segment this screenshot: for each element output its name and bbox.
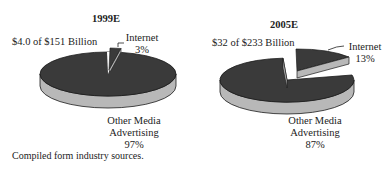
other-label-2005e: Other Media Advertising 87% — [281, 115, 349, 151]
title-1999e: 1999E — [92, 13, 120, 25]
other-label-line1: Other Media — [100, 115, 168, 127]
other-label-1999e: Other Media Advertising 97% — [100, 115, 168, 151]
internet-label: Internet — [124, 32, 160, 44]
other-label-line1: Other Media — [281, 115, 349, 127]
subtitle-1999e: $4.0 of $151 Billion — [12, 36, 97, 48]
internet-label-2005e: Internet 13% — [345, 41, 385, 65]
subtitle-2005e: $32 of $233 Billion — [212, 37, 295, 49]
pie-2005e — [220, 46, 354, 114]
internet-pct: 3% — [124, 44, 160, 56]
internet-label-1999e: Internet 3% — [124, 32, 160, 56]
title-2005e: 2005E — [270, 19, 298, 31]
internet-pct: 13% — [345, 53, 385, 65]
other-label-line2: Advertising — [100, 127, 168, 139]
source-footnote: Compiled form industry sources. — [12, 150, 144, 162]
other-pct: 87% — [281, 139, 349, 151]
internet-label: Internet — [345, 41, 385, 53]
other-label-line2: Advertising — [281, 127, 349, 139]
